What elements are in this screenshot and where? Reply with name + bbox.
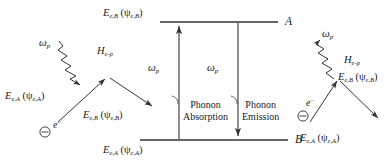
right-incoming-electron-arrow	[310, 81, 337, 122]
phonon-absorption-line2: Absorption	[183, 112, 228, 122]
upper-level-name-label: A	[285, 16, 292, 28]
phonon-absorption-line1: Phonon	[183, 100, 228, 110]
left-interaction-hamiltonian-label: He-p	[97, 46, 113, 57]
right-phonon-wavy-arrow	[316, 40, 334, 79]
phonon-emission-line1: Phonon	[242, 100, 279, 110]
left-electron-circle-icon	[40, 127, 50, 137]
left-phonon-wavy-arrow	[58, 41, 80, 85]
emission-omega-label: ωp	[207, 62, 218, 75]
right-phonon-omega-label: ωp	[322, 28, 333, 41]
phonon-absorption-arrow	[172, 26, 179, 139]
left-electron-label: e−	[53, 120, 61, 130]
right-electron-label: e−	[306, 98, 314, 108]
right-outgoing-electron-energy-label: Ee,B (ψe,B)	[338, 72, 378, 83]
phonon-absorption-label: Phonon Absorption	[183, 100, 228, 122]
electron-phonon-interaction-diagram: ωp He-p Ee,A (ψe,A) Ee,B (ψe,B) e− Ee,B …	[0, 0, 385, 166]
phonon-emission-line2: Emission	[242, 112, 279, 122]
left-outgoing-electron-energy-label: Ee,B (ψe,B)	[83, 110, 123, 121]
right-interaction-hamiltonian-label: He-p	[344, 55, 360, 66]
right-electron-circle-icon	[298, 111, 308, 121]
right-incoming-electron-energy-label: Ee,A (ψe,A)	[300, 133, 340, 144]
absorption-omega-label: ωp	[148, 62, 159, 75]
left-outgoing-electron-arrow	[110, 78, 152, 106]
right-outgoing-electron-arrow	[340, 81, 378, 118]
phonon-emission-arrow	[231, 23, 238, 136]
phonon-emission-label: Phonon Emission	[242, 100, 279, 122]
upper-level-energy-label: Ee,B (ψe,B)	[103, 8, 143, 19]
left-phonon-omega-label: ωp	[39, 37, 50, 50]
lower-level-energy-label: Ee,A (ψe,A)	[103, 145, 143, 156]
left-incoming-electron-energy-label: Ee,A (ψe,A)	[5, 91, 45, 102]
